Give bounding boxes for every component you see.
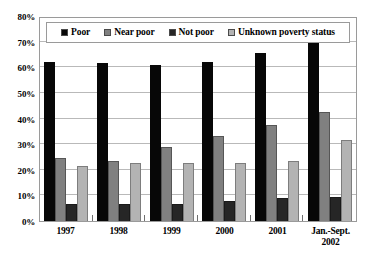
- legend-item[interactable]: Unknown poverty status: [228, 28, 335, 38]
- bar[interactable]: [341, 140, 352, 221]
- x-tick-label: 1997: [39, 224, 92, 256]
- bar-group: [40, 18, 93, 221]
- legend-item-label: Unknown poverty status: [238, 28, 335, 38]
- bar[interactable]: [44, 62, 55, 221]
- bar[interactable]: [97, 63, 108, 221]
- bar[interactable]: [202, 62, 213, 221]
- bar[interactable]: [150, 65, 161, 221]
- y-tick-label: 60%: [1, 64, 35, 73]
- y-tick-label: 20%: [1, 166, 35, 175]
- bar-group: [198, 18, 251, 221]
- bar[interactable]: [288, 161, 299, 221]
- bar-group: [93, 18, 146, 221]
- bar[interactable]: [172, 204, 183, 221]
- x-tick-label-line1: 2001: [268, 226, 286, 236]
- legend-item-label: Not poor: [179, 28, 214, 38]
- y-tick-label: 40%: [1, 115, 35, 124]
- bar[interactable]: [130, 163, 141, 221]
- bar[interactable]: [255, 53, 266, 221]
- bar[interactable]: [277, 198, 288, 221]
- legend-item[interactable]: Not poor: [169, 28, 214, 38]
- x-axis: 19971998199920002001Jan.-Sept.2002: [39, 224, 357, 256]
- y-tick-label: 0%: [1, 218, 35, 227]
- y-tick-label: 30%: [1, 141, 35, 150]
- bar[interactable]: [55, 158, 66, 221]
- y-axis: 0%10%20%30%40%50%60%70%80%: [0, 0, 38, 256]
- y-tick-label: 10%: [1, 192, 35, 201]
- x-tick-label: 1998: [92, 224, 145, 256]
- bar[interactable]: [213, 136, 224, 221]
- bar[interactable]: [319, 112, 330, 221]
- bar-chart: 0%10%20%30%40%50%60%70%80% PoorNear poor…: [0, 0, 365, 256]
- bar[interactable]: [66, 204, 77, 221]
- legend-item-label: Poor: [71, 28, 90, 38]
- bar[interactable]: [266, 125, 277, 221]
- legend-item-label: Near poor: [114, 28, 154, 38]
- bar[interactable]: [308, 42, 319, 221]
- x-tick-label: 1999: [145, 224, 198, 256]
- legend: PoorNear poorNot poorUnknown poverty sta…: [46, 22, 350, 43]
- bar[interactable]: [119, 204, 130, 221]
- x-tick-label: Jan.-Sept.2002: [304, 224, 357, 256]
- x-tick-label-line1: 2000: [215, 226, 233, 236]
- legend-swatch-not-poor-icon: [169, 29, 176, 36]
- bar[interactable]: [183, 163, 194, 221]
- legend-swatch-near-poor-icon: [104, 29, 111, 36]
- legend-swatch-poor-icon: [61, 29, 68, 36]
- y-tick-label: 70%: [1, 38, 35, 47]
- bar[interactable]: [108, 161, 119, 221]
- bar[interactable]: [161, 147, 172, 221]
- x-tick-label-line2: 2002: [304, 237, 357, 248]
- plot-area: PoorNear poorNot poorUnknown poverty sta…: [39, 17, 357, 222]
- legend-item[interactable]: Near poor: [104, 28, 154, 38]
- bar[interactable]: [77, 166, 88, 221]
- bar[interactable]: [235, 163, 246, 221]
- x-tick-label-line1: Jan.-Sept.: [311, 226, 350, 236]
- bar[interactable]: [330, 197, 341, 221]
- bar[interactable]: [224, 201, 235, 222]
- bars-layer: [40, 18, 356, 221]
- x-tick-label-line1: 1997: [56, 226, 74, 236]
- bar-group: [145, 18, 198, 221]
- y-tick-label: 80%: [1, 13, 35, 22]
- bar-group: [251, 18, 304, 221]
- x-tick-label-line1: 1999: [162, 226, 180, 236]
- legend-swatch-unknown-icon: [228, 29, 235, 36]
- y-tick-label: 50%: [1, 89, 35, 98]
- bar-group: [303, 18, 356, 221]
- x-tick-label-line1: 1998: [109, 226, 127, 236]
- x-tick-label: 2000: [198, 224, 251, 256]
- legend-item[interactable]: Poor: [61, 28, 90, 38]
- x-tick-label: 2001: [251, 224, 304, 256]
